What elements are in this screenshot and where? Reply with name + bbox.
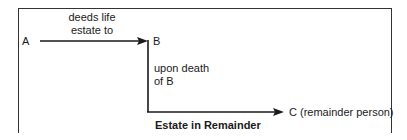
edge-label-a-to-b: deeds life estate to <box>64 11 120 37</box>
edge-label-line: deeds life <box>64 11 120 24</box>
node-b: B <box>153 35 160 48</box>
node-c: C (remainder person) <box>289 106 394 119</box>
edge-label-line: estate to <box>64 24 120 37</box>
edge-label-b-to-c: upon death of B <box>154 62 209 88</box>
node-a: A <box>22 35 29 48</box>
edge-label-line: of B <box>154 75 209 88</box>
diagram-caption: Estate in Remainder <box>155 119 261 132</box>
edge-label-line: upon death <box>154 62 209 75</box>
arrow-a-to-b <box>40 37 148 45</box>
